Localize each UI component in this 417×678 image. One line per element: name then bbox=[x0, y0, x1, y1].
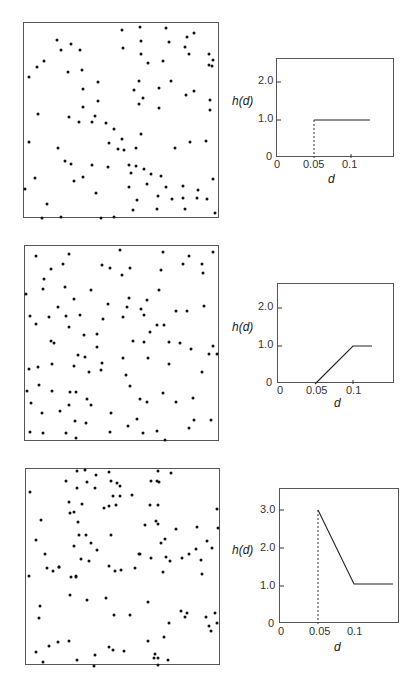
scatter-point bbox=[146, 299, 149, 302]
ytick-bottom-0: 0 bbox=[268, 617, 274, 629]
scatter-point bbox=[168, 363, 171, 366]
scatter-point bbox=[138, 80, 141, 83]
scatter-point bbox=[96, 333, 99, 336]
scatter-point bbox=[203, 305, 206, 308]
scatter-point bbox=[140, 53, 143, 56]
scatter-point bbox=[142, 97, 145, 100]
scatter-point bbox=[112, 649, 115, 652]
scatter-point bbox=[52, 570, 55, 573]
scatter-point bbox=[65, 480, 68, 483]
scatter-point bbox=[69, 594, 72, 597]
scatter-point bbox=[35, 651, 38, 654]
scatter-point bbox=[156, 430, 159, 433]
scatter-point bbox=[121, 138, 124, 141]
scatter-point bbox=[158, 289, 161, 292]
scatter-point bbox=[131, 494, 134, 497]
scatter-point bbox=[144, 524, 147, 527]
scatter-point bbox=[67, 71, 70, 74]
scatter-point bbox=[78, 534, 81, 537]
scatter-point bbox=[94, 654, 97, 657]
scatter-point bbox=[42, 432, 45, 435]
scatter-point bbox=[79, 49, 82, 52]
xlabel-middle: d bbox=[334, 396, 341, 410]
scatter-point bbox=[126, 306, 129, 309]
scatter-point bbox=[195, 548, 198, 551]
scatter-point bbox=[211, 65, 214, 68]
scatter-point bbox=[96, 346, 99, 349]
xtick-bottom-0: 0 bbox=[278, 625, 284, 637]
scatter-point bbox=[38, 384, 41, 387]
scatter-point bbox=[196, 526, 199, 529]
scatter-point bbox=[73, 298, 76, 301]
scatter-point bbox=[157, 657, 160, 660]
scatter-point bbox=[146, 401, 149, 404]
scatter-point bbox=[127, 425, 130, 428]
scatter-point bbox=[82, 88, 85, 91]
scatter-point bbox=[28, 575, 31, 578]
scatter-point bbox=[86, 398, 89, 401]
scatter-point bbox=[77, 521, 80, 524]
scatter-point bbox=[51, 390, 54, 393]
scatter-point bbox=[142, 432, 145, 435]
scatter-point bbox=[168, 622, 171, 625]
scatter-point bbox=[48, 645, 51, 648]
ytick-bottom-1: 1.0 bbox=[260, 579, 275, 591]
scatter-point bbox=[216, 622, 219, 625]
scatter-point bbox=[41, 412, 44, 415]
scatter-point bbox=[170, 80, 173, 83]
scatter-point bbox=[75, 391, 78, 394]
scatter-point bbox=[29, 431, 32, 434]
scatter-point bbox=[150, 480, 153, 483]
scatter-point bbox=[217, 527, 220, 530]
scatter-point bbox=[108, 471, 111, 474]
scatter-point bbox=[81, 503, 84, 506]
scatter-point bbox=[132, 340, 135, 343]
scatter-point bbox=[210, 630, 213, 633]
scatter-point bbox=[28, 76, 31, 79]
scatter-point bbox=[68, 640, 71, 643]
scatter-point bbox=[208, 53, 211, 56]
scatter-point bbox=[128, 186, 131, 189]
scatter-point bbox=[182, 185, 185, 188]
scatter-point bbox=[91, 164, 94, 167]
scatter-point bbox=[108, 142, 111, 145]
hd-curve-middle bbox=[278, 284, 395, 384]
scatter-point bbox=[117, 148, 120, 151]
scatter-point bbox=[109, 431, 112, 434]
ytick-bottom-3: 3.0 bbox=[260, 503, 275, 515]
scatter-point bbox=[38, 617, 41, 620]
scatter-point bbox=[50, 268, 53, 271]
scatter-point bbox=[136, 199, 139, 202]
scatter-point bbox=[42, 661, 45, 664]
scatter-point bbox=[43, 278, 46, 281]
scatter-point bbox=[39, 605, 42, 608]
scatter-point bbox=[138, 103, 141, 106]
scatter-point bbox=[201, 573, 204, 576]
scatter-point bbox=[162, 60, 165, 63]
scatter-point bbox=[29, 315, 32, 318]
scatter-point bbox=[212, 345, 215, 348]
scatter-point bbox=[135, 165, 138, 168]
scatter-point bbox=[62, 263, 65, 266]
scatter-point bbox=[157, 664, 160, 667]
scatter-point bbox=[25, 293, 28, 296]
scatter-point bbox=[175, 401, 178, 404]
scatter-point bbox=[90, 404, 93, 407]
scatter-point bbox=[26, 390, 29, 393]
scatter-point bbox=[108, 646, 111, 649]
scatter-point bbox=[184, 208, 187, 211]
scatter-point bbox=[90, 289, 93, 292]
scatter-point bbox=[182, 263, 185, 266]
scatter-point bbox=[51, 363, 54, 366]
scatter-point bbox=[115, 504, 118, 507]
hd-curve-top bbox=[277, 59, 395, 158]
xlabel-top: d bbox=[328, 172, 335, 186]
scatter-point bbox=[156, 208, 159, 211]
scatter-point bbox=[128, 297, 131, 300]
scatter-point bbox=[143, 314, 146, 317]
scatter-point bbox=[143, 168, 146, 171]
scatter-point bbox=[189, 141, 192, 144]
ytick-top-2: 2.0 bbox=[258, 74, 273, 86]
scatter-point bbox=[188, 53, 191, 56]
scatter-point bbox=[163, 636, 166, 639]
